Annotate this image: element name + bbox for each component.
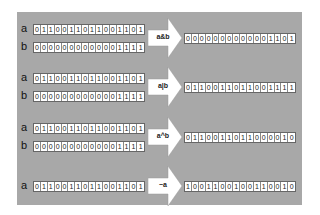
bit-cell: 0 bbox=[110, 182, 117, 191]
operand-bits-b: 0000000000001111 bbox=[33, 91, 145, 102]
bit-cell: 0 bbox=[75, 92, 82, 101]
bit-cell: 1 bbox=[89, 182, 96, 191]
bit-cell: 0 bbox=[275, 133, 282, 142]
bit-cell: 0 bbox=[185, 34, 192, 43]
bit-cell: 1 bbox=[137, 25, 144, 34]
bit-cell: 0 bbox=[254, 34, 261, 43]
bit-cell: 0 bbox=[192, 34, 199, 43]
bit-cell: 1 bbox=[219, 133, 226, 142]
bit-cell: 1 bbox=[75, 74, 82, 83]
bit-cell: 1 bbox=[268, 34, 275, 43]
bit-cell: 0 bbox=[82, 124, 89, 133]
bit-cell: 1 bbox=[219, 83, 226, 92]
variable-label-a: a bbox=[21, 122, 27, 133]
bit-cell: 1 bbox=[96, 25, 103, 34]
bit-cell: 0 bbox=[89, 43, 96, 52]
bit-cell: 1 bbox=[124, 92, 131, 101]
bit-cell: 1 bbox=[68, 182, 75, 191]
bit-cell: 0 bbox=[103, 43, 110, 52]
bit-cell: 0 bbox=[247, 182, 254, 191]
bit-cell: 0 bbox=[62, 92, 69, 101]
operand-bits-a: 0110011011001101 bbox=[33, 24, 145, 35]
bit-cell: 1 bbox=[130, 43, 137, 52]
bit-cell: 0 bbox=[110, 124, 117, 133]
bit-cell: 1 bbox=[48, 74, 55, 83]
operator-label: ~a bbox=[148, 181, 178, 188]
bit-cell: 0 bbox=[55, 124, 62, 133]
bit-cell: 0 bbox=[62, 74, 69, 83]
bit-cell: 0 bbox=[89, 142, 96, 151]
bit-cell: 0 bbox=[103, 92, 110, 101]
bit-cell: 0 bbox=[130, 74, 137, 83]
bit-cell: 0 bbox=[247, 34, 254, 43]
bit-cell: 0 bbox=[34, 182, 41, 191]
bit-cell: 0 bbox=[261, 133, 268, 142]
bit-cell: 1 bbox=[247, 83, 254, 92]
bit-cell: 0 bbox=[34, 92, 41, 101]
bit-cell: 0 bbox=[34, 74, 41, 83]
bit-cell: 1 bbox=[124, 142, 131, 151]
bit-cell: 0 bbox=[82, 25, 89, 34]
bit-cell: 0 bbox=[110, 92, 117, 101]
bit-cell: 0 bbox=[82, 74, 89, 83]
variable-label-a: a bbox=[21, 72, 27, 83]
bit-cell: 0 bbox=[75, 43, 82, 52]
bit-cell: 0 bbox=[34, 124, 41, 133]
bit-cell: 1 bbox=[41, 182, 48, 191]
bit-cell: 0 bbox=[41, 92, 48, 101]
bit-cell: 0 bbox=[110, 74, 117, 83]
bit-cell: 1 bbox=[261, 182, 268, 191]
bit-cell: 1 bbox=[75, 124, 82, 133]
result-bits: 0000000000001101 bbox=[184, 33, 296, 44]
bit-cell: 1 bbox=[254, 182, 261, 191]
bit-cell: 0 bbox=[185, 83, 192, 92]
bit-cell: 1 bbox=[130, 142, 137, 151]
bit-cell: 0 bbox=[185, 133, 192, 142]
bit-cell: 0 bbox=[103, 25, 110, 34]
operand-bits-a: 0110011011001101 bbox=[33, 73, 145, 84]
variable-label-b: b bbox=[21, 41, 27, 52]
bit-cell: 0 bbox=[261, 34, 268, 43]
bit-cell: 0 bbox=[68, 43, 75, 52]
bit-cell: 0 bbox=[55, 182, 62, 191]
bit-cell: 0 bbox=[199, 34, 206, 43]
bit-cell: 0 bbox=[48, 142, 55, 151]
bit-cell: 0 bbox=[281, 34, 288, 43]
bit-cell: 0 bbox=[62, 182, 69, 191]
bit-cell: 1 bbox=[199, 83, 206, 92]
bit-cell: 0 bbox=[75, 142, 82, 151]
bit-cell: 0 bbox=[110, 142, 117, 151]
bit-cell: 1 bbox=[137, 124, 144, 133]
bit-cell: 1 bbox=[117, 25, 124, 34]
bit-cell: 0 bbox=[96, 43, 103, 52]
operator-label: a^b bbox=[148, 132, 178, 139]
bit-cell: 1 bbox=[68, 124, 75, 133]
bit-cell: 0 bbox=[55, 142, 62, 151]
bit-cell: 0 bbox=[41, 142, 48, 151]
bit-cell: 1 bbox=[192, 83, 199, 92]
bit-cell: 0 bbox=[233, 83, 240, 92]
bit-cell: 1 bbox=[117, 124, 124, 133]
bit-cell: 1 bbox=[89, 25, 96, 34]
bit-cell: 0 bbox=[34, 43, 41, 52]
bit-cell: 1 bbox=[240, 83, 247, 92]
bit-cell: 0 bbox=[62, 124, 69, 133]
bit-cell: 1 bbox=[124, 25, 131, 34]
bit-cell: 0 bbox=[233, 34, 240, 43]
bit-cell: 0 bbox=[240, 34, 247, 43]
bit-cell: 0 bbox=[55, 25, 62, 34]
bit-cell: 0 bbox=[96, 142, 103, 151]
bit-cell: 0 bbox=[103, 182, 110, 191]
bit-cell: 0 bbox=[34, 25, 41, 34]
bit-cell: 0 bbox=[55, 43, 62, 52]
bit-cell: 1 bbox=[117, 92, 124, 101]
bit-cell: 0 bbox=[68, 92, 75, 101]
bit-cell: 1 bbox=[124, 182, 131, 191]
variable-label-a: a bbox=[21, 23, 27, 34]
bit-cell: 0 bbox=[254, 133, 261, 142]
bit-cell: 0 bbox=[110, 25, 117, 34]
bit-cell: 0 bbox=[275, 182, 282, 191]
bit-cell: 0 bbox=[226, 34, 233, 43]
bit-cell: 1 bbox=[199, 133, 206, 142]
bit-cell: 0 bbox=[261, 83, 268, 92]
